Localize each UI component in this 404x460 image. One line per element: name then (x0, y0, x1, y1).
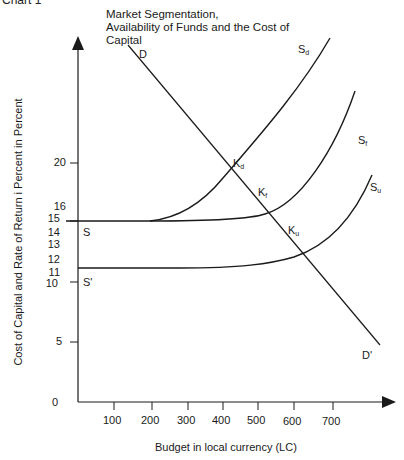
chart-plot (0, 0, 404, 460)
x-tick-200: 200 (141, 414, 159, 426)
supply-curve-sd (150, 38, 330, 221)
x-axis-arrow-icon (382, 396, 396, 408)
x-tick-100: 100 (103, 414, 121, 426)
y-tick-10: 10 (28, 277, 58, 289)
y-tick-13: 13 (30, 238, 60, 250)
y-tick-20: 20 (36, 156, 66, 168)
label-sd: Sd (298, 43, 309, 56)
label-s-prime: S' (83, 276, 92, 288)
x-ticks (114, 402, 333, 410)
y-tick-15: 15 (30, 212, 60, 224)
x-tick-600: 600 (283, 415, 301, 427)
label-ku: Ku (288, 224, 299, 237)
y-tick-14: 14 (30, 226, 60, 238)
label-kf: Kf (258, 186, 267, 199)
label-sf: Sf (358, 134, 367, 147)
x-tick-500: 500 (247, 414, 265, 426)
x-axis-label: Budget in local currency (LC) (155, 441, 297, 453)
label-d: D (139, 48, 147, 60)
label-su: Su (370, 181, 381, 194)
x-tick-700: 700 (322, 415, 340, 427)
y-axis-arrow-icon (72, 36, 84, 50)
y-ticks (70, 163, 78, 342)
y-tick-0: 0 (28, 396, 58, 408)
y-tick-5: 5 (32, 335, 62, 347)
x-tick-300: 300 (177, 414, 195, 426)
x-tick-400: 400 (212, 414, 230, 426)
y-axis-label: Cost of Capital and Rate of Return i Per… (12, 98, 24, 365)
label-s: S (83, 226, 90, 238)
y-tick-16: 16 (36, 200, 66, 212)
label-kd: Kd (233, 157, 244, 170)
y-tick-12: 12 (30, 253, 60, 265)
supply-curve-sf (66, 91, 355, 221)
demand-line-d (128, 45, 380, 345)
label-d-prime: D' (362, 349, 372, 361)
